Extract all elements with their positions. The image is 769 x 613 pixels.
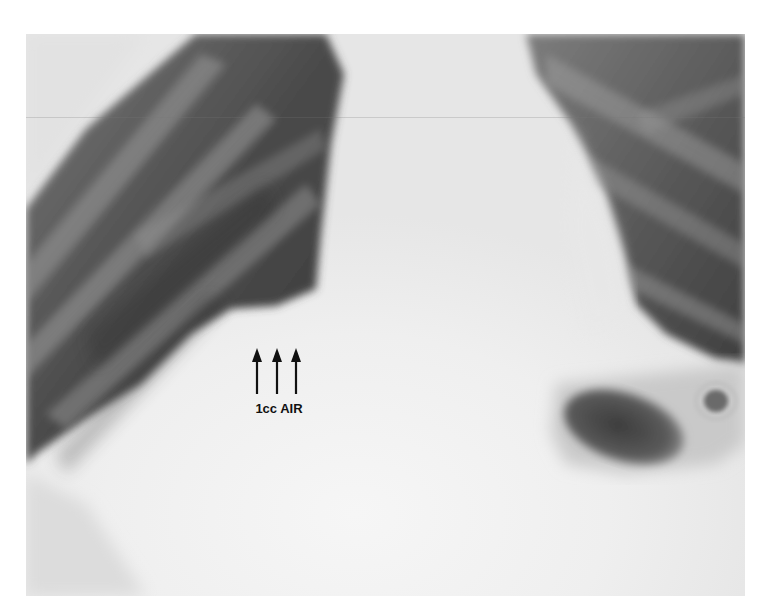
xray-film — [26, 34, 745, 596]
gastric-air-bubble — [551, 364, 745, 478]
annotation-label: 1cc AIR — [248, 401, 310, 416]
left-lower-soft-tissue — [26, 474, 146, 596]
arrow-up-icon — [252, 348, 262, 362]
air-annotation: 1cc AIR — [226, 346, 318, 426]
arrow-up-icon-group — [226, 346, 306, 401]
film-scan-line — [26, 117, 745, 118]
arrow-up-icon — [291, 348, 301, 362]
arrow-up-icon — [272, 348, 282, 362]
xray-anatomy — [26, 34, 745, 596]
right-lung-field — [526, 34, 745, 364]
